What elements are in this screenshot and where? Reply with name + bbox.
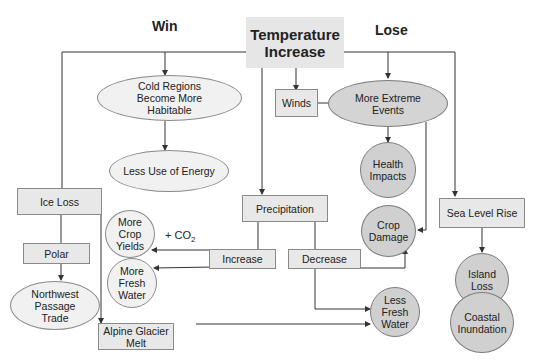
coastal-inundation-node: Coastal Inundation <box>450 292 514 353</box>
precipitation-node: Precipitation <box>242 195 328 222</box>
less-energy-node: Less Use of Energy <box>109 150 229 192</box>
win-heading: Win <box>152 18 178 34</box>
temperature-increase-node: Temperature Increase <box>246 17 344 68</box>
crop-damage-node: Crop Damage <box>361 205 416 257</box>
polar-node: Polar <box>23 243 90 264</box>
less-fresh-water-node: Less Fresh Water <box>370 287 420 337</box>
ice-loss-node: Ice Loss <box>17 188 102 215</box>
northwest-passage-node: Northwest Passage Trade <box>10 281 100 330</box>
sea-level-rise-node: Sea Level Rise <box>439 198 525 228</box>
decrease-node: Decrease <box>288 249 361 269</box>
cold-regions-node: Cold Regions Become More Habitable <box>97 75 242 121</box>
co2-annotation: + CO2 <box>165 229 195 244</box>
alpine-glacier-node: Alpine Glacier Melt <box>98 323 174 350</box>
lose-heading: Lose <box>375 22 408 38</box>
health-impacts-node: Health Impacts <box>360 142 416 198</box>
more-fresh-water-node: More Fresh Water <box>107 258 157 308</box>
winds-node: Winds <box>275 89 318 117</box>
extreme-events-node: More Extreme Events <box>328 80 448 127</box>
increase-node: Increase <box>209 249 276 269</box>
more-crop-yields-node: More Crop Yields <box>105 210 155 258</box>
